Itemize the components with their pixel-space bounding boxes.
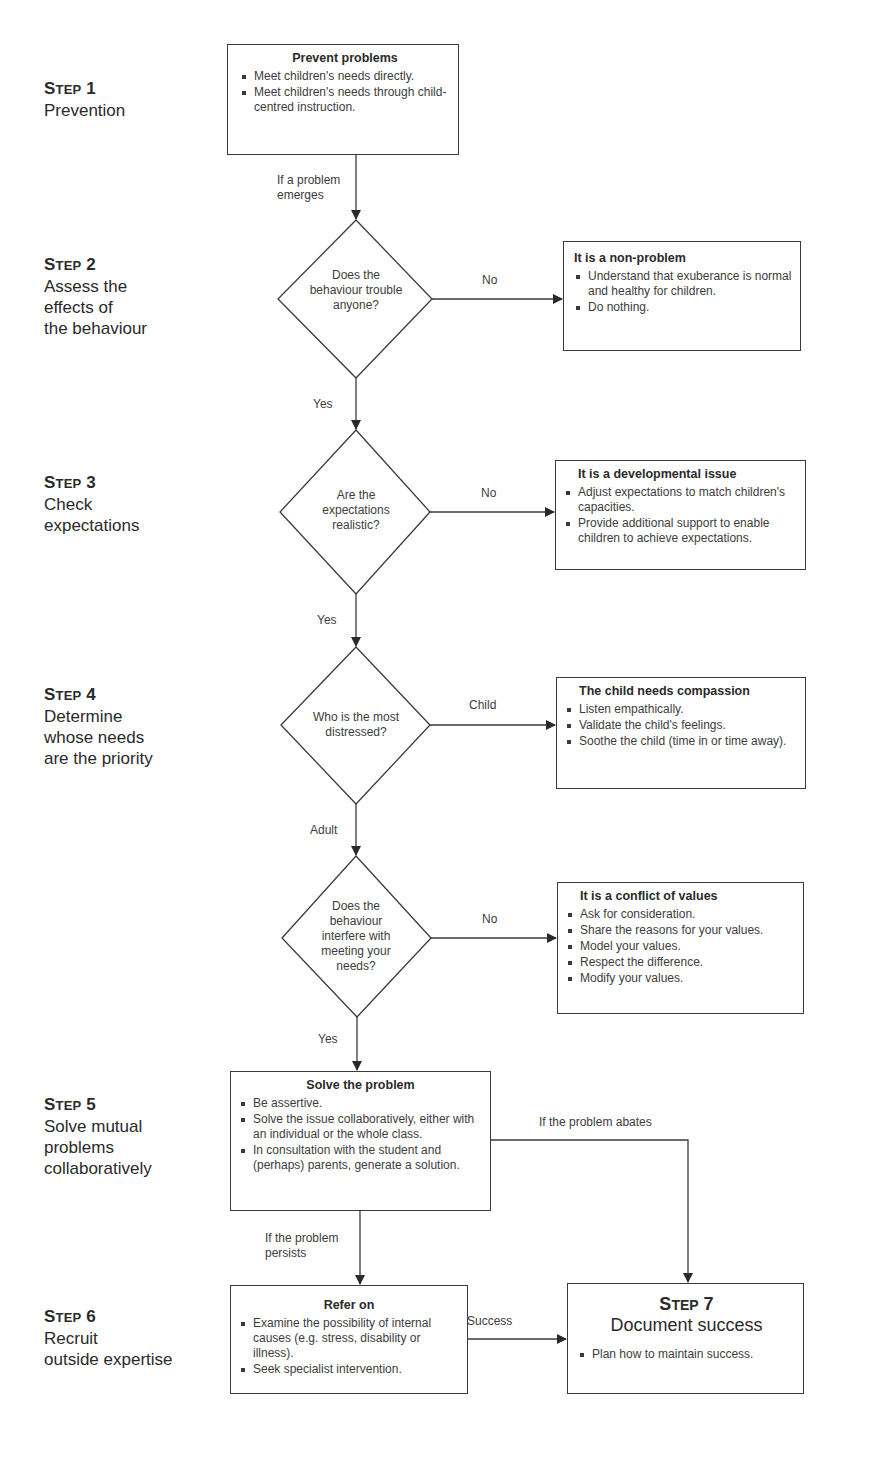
conflict-of-values-box: It is a conflict of values Ask for consi… [557,882,804,1014]
document-success-box: STEP 7 Document success Plan how to main… [567,1283,804,1394]
refer-on-box: Refer on Examine the possibility of inte… [230,1285,468,1394]
step-3-line: Check [44,494,139,515]
box-title: The child needs compassion [565,684,797,699]
decision-text-trouble: Does the behaviour trouble anyone? [306,268,406,313]
decision-text-distressed: Who is the most distressed? [306,710,406,740]
box-title: Solve the problem [239,1078,482,1093]
step-word-small-caps: TEP [56,1310,82,1325]
step-4-line: are the priority [44,748,153,769]
label-if-problem-emerges: If a problem emerges [277,173,347,203]
bullet-item: Listen empathically. [565,702,797,717]
step-4-label: STEP 4 Determine whose needs are the pri… [44,684,153,769]
bullet-item: Validate the child's feelings. [565,718,797,733]
label-no-realistic: No [481,486,496,501]
step-6-number: STEP 6 [44,1306,173,1328]
bullet-item: In consultation with the student and (pe… [239,1143,482,1173]
label-child: Child [469,698,496,713]
step-6-line: outside expertise [44,1349,173,1370]
step-2-line: Assess the [44,276,147,297]
step-3-label: STEP 3 Check expectations [44,472,139,536]
step-2-number: STEP 2 [44,254,147,276]
label-no-trouble: No [482,273,497,288]
bullet-item: Do nothing. [574,300,792,315]
child-compassion-box: The child needs compassion Listen empath… [556,677,806,789]
bullet-item: Ask for consideration. [566,907,795,922]
step-5-number: STEP 5 [44,1094,152,1116]
label-success: Success [467,1314,512,1329]
step-1-number: STEP 1 [44,78,125,100]
bullet-item: Meet children's needs through child-cent… [240,85,450,115]
step-2-label: STEP 2 Assess the effects of the behavio… [44,254,147,339]
solve-problem-box: Solve the problem Be assertive. Solve th… [230,1071,491,1211]
developmental-issue-box: It is a developmental issue Adjust expec… [555,460,806,570]
step-1-line: Prevention [44,100,125,121]
step-word-small-caps: TEP [56,258,82,273]
step-3-number: STEP 3 [44,472,139,494]
step-word-small-caps: TEP [56,476,82,491]
step-6-line: Recruit [44,1328,173,1349]
box-title: It is a developmental issue [564,467,797,482]
step-word-small-caps: TEP [56,82,82,97]
label-if-problem-persists: If the problem persists [265,1231,345,1261]
bullet-item: Plan how to maintain success. [578,1347,795,1362]
step-7-number: STEP 7 [578,1294,795,1315]
label-yes-trouble: Yes [313,397,333,412]
arrow-abates [490,1140,688,1282]
label-yes-interfere: Yes [318,1032,338,1047]
step-word-small-caps: TEP [56,688,82,703]
box-title: It is a non-problem [574,251,792,266]
bullet-item: Soothe the child (time in or time away). [565,734,797,749]
step-6-label: STEP 6 Recruit outside expertise [44,1306,173,1370]
step-2-line: the behaviour [44,318,147,339]
bullet-item: Adjust expectations to match children's … [564,485,797,515]
decision-text-realistic: Are the expectations realistic? [306,488,406,533]
box-title: Document success [578,1315,795,1335]
bullet-item: Modify your values. [566,971,795,986]
step-3-line: expectations [44,515,139,536]
step-2-line: effects of [44,297,147,318]
step-4-number: STEP 4 [44,684,153,706]
prevent-problems-box: Prevent problems Meet children's needs d… [227,44,459,155]
bullet-item: Examine the possibility of internal caus… [239,1316,459,1361]
label-yes-realistic: Yes [317,613,337,628]
bullet-item: Understand that exuberance is normal and… [574,269,792,299]
label-no-interfere: No [482,912,497,927]
step-word-small-caps: TEP [671,1297,698,1313]
bullet-item: Meet children's needs directly. [240,69,450,84]
label-adult: Adult [310,823,337,838]
step-word-small-caps: TEP [56,1098,82,1113]
step-5-line: Solve mutual [44,1116,152,1137]
step-5-label: STEP 5 Solve mutual problems collaborati… [44,1094,152,1179]
bullet-item: Provide additional support to enable chi… [564,516,797,546]
bullet-item: Respect the difference. [566,955,795,970]
step-5-line: collaboratively [44,1158,152,1179]
box-title: Refer on [239,1298,459,1313]
step-1-label: STEP 1 Prevention [44,78,125,121]
step-4-line: whose needs [44,727,153,748]
bullet-item: Model your values. [566,939,795,954]
bullet-item: Seek specialist intervention. [239,1362,459,1377]
box-title: It is a conflict of values [566,889,795,904]
bullet-item: Share the reasons for your values. [566,923,795,938]
bullet-item: Be assertive. [239,1096,482,1111]
box-title: Prevent problems [240,51,450,66]
step-5-line: problems [44,1137,152,1158]
bullet-item: Solve the issue collaboratively, either … [239,1112,482,1142]
non-problem-box: It is a non-problem Understand that exub… [563,241,801,351]
decision-text-interfere: Does the behaviour interfere with meetin… [308,899,404,974]
step-4-line: Determine [44,706,153,727]
label-if-problem-abates: If the problem abates [539,1115,652,1130]
